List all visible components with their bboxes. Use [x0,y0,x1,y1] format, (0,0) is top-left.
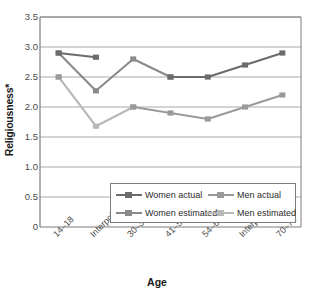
series-line-segment [96,59,133,91]
series-men-estimated [56,74,137,128]
series-line-segment [245,53,282,65]
data-point-marker [168,110,174,115]
data-point-marker [242,104,248,109]
series-line-segment [208,107,245,119]
data-point-marker [93,88,99,93]
plot-area [0,0,314,295]
data-point-marker [56,50,62,55]
series-line-segment [133,107,170,113]
legend-row: Women actual Men actual [111,186,295,204]
legend-label: Men actual [237,190,281,200]
legend-label: Men estimated [237,208,296,218]
series-line-segment [208,65,245,77]
chart-legend: Women actual Men actual Women estimated [110,183,296,223]
legend-label: Women actual [145,190,202,200]
series-line-segment [59,53,96,57]
legend-item-men-actual: Men actual [203,186,295,204]
data-point-marker [130,104,136,109]
chart-figure: Religiousness* 3.53.02.52.01.51.00.50 14… [0,0,314,295]
series-line-segment [96,107,133,126]
data-point-marker [205,116,211,121]
data-point-marker [205,74,211,79]
legend-marker-icon [116,190,142,200]
x-axis-title: Age [0,276,314,288]
legend-marker-icon [208,208,234,218]
data-point-marker [56,74,62,79]
legend-item-men-estimated: Men estimated [203,204,295,222]
data-point-marker [279,92,285,97]
legend-item-women-actual: Women actual [111,186,203,204]
series-line-segment [133,59,170,77]
legend-item-women-estimated: Women estimated [111,204,203,222]
series-women-estimated [56,50,174,93]
legend-row: Women estimated Men estimated [111,204,295,222]
legend-marker-icon [116,208,142,218]
data-point-marker [130,56,136,61]
legend-marker-icon [208,190,234,200]
data-point-marker [168,74,174,79]
data-point-marker [279,50,285,55]
data-point-marker [93,55,99,60]
series-women-actual [56,50,286,79]
series-line-segment [171,113,208,119]
series-men-actual [56,74,286,121]
data-point-marker [93,124,99,129]
data-point-marker [242,62,248,67]
series-line-segment [245,95,282,107]
